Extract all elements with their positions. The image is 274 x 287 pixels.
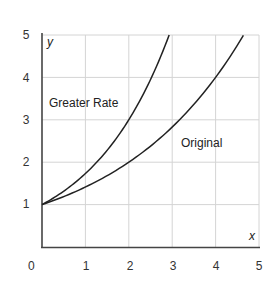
- greater-rate-label: Greater Rate: [49, 96, 119, 110]
- x-tick-2: 2: [127, 259, 134, 273]
- x-tick-1: 1: [83, 259, 90, 273]
- tick-labels: 0 1 2 3 4 5 1 2 3 4 5: [23, 28, 263, 273]
- y-axis-label: y: [46, 35, 54, 49]
- chart: 0 1 2 3 4 5 1 2 3 4 5 y x Greater Rate O…: [0, 0, 274, 287]
- y-tick-4: 4: [23, 71, 30, 85]
- x-axis-label: x: [248, 229, 256, 243]
- x-tick-4: 4: [213, 259, 220, 273]
- axes: [41, 33, 260, 248]
- origin-label: 0: [28, 259, 35, 273]
- gridlines: [42, 35, 259, 247]
- y-tick-5: 5: [23, 28, 30, 42]
- original-label: Original: [181, 136, 222, 150]
- x-tick-3: 3: [170, 259, 177, 273]
- x-tick-5: 5: [256, 259, 263, 273]
- y-tick-3: 3: [23, 113, 30, 127]
- y-tick-2: 2: [23, 155, 30, 169]
- y-tick-1: 1: [23, 197, 30, 211]
